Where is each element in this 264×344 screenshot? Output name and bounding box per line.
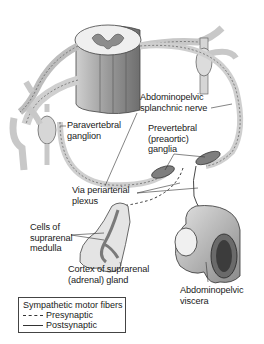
label-splanchnic-nerve: Abdominopelvic splanchnic nerve xyxy=(140,92,207,113)
legend-title: Sympathetic motor fibers xyxy=(23,300,121,310)
label-suprarenal-cortex: Cortex of suprarenal (adrenal) gland xyxy=(68,264,149,285)
label-medulla-cells: Cells of suprarenal medulla xyxy=(30,222,72,254)
sympathetic-trunk-right xyxy=(140,28,236,94)
label-prevertebral-ganglia: Prevertebral (preaortic) ganglia xyxy=(148,123,197,155)
legend-item-postsynaptic: Postsynaptic xyxy=(23,320,121,330)
dashed-line-swatch xyxy=(23,315,43,316)
legend: Sympathetic motor fibers Presynaptic Pos… xyxy=(18,297,126,333)
label-periarterial-plexus: Via periarterial plexus xyxy=(72,185,129,206)
abdominopelvic-viscera xyxy=(175,206,240,283)
legend-label: Postsynaptic xyxy=(46,320,97,330)
paravertebral-ganglion xyxy=(13,104,56,170)
label-paravertebral-ganglion: Paravertebral ganglion xyxy=(67,120,121,141)
label-viscera: Abdominopelvic viscera xyxy=(180,285,243,306)
solid-line-swatch xyxy=(23,325,43,326)
spinal-cord-segment xyxy=(75,25,141,114)
legend-item-presynaptic: Presynaptic xyxy=(23,310,121,320)
legend-label: Presynaptic xyxy=(46,310,93,320)
